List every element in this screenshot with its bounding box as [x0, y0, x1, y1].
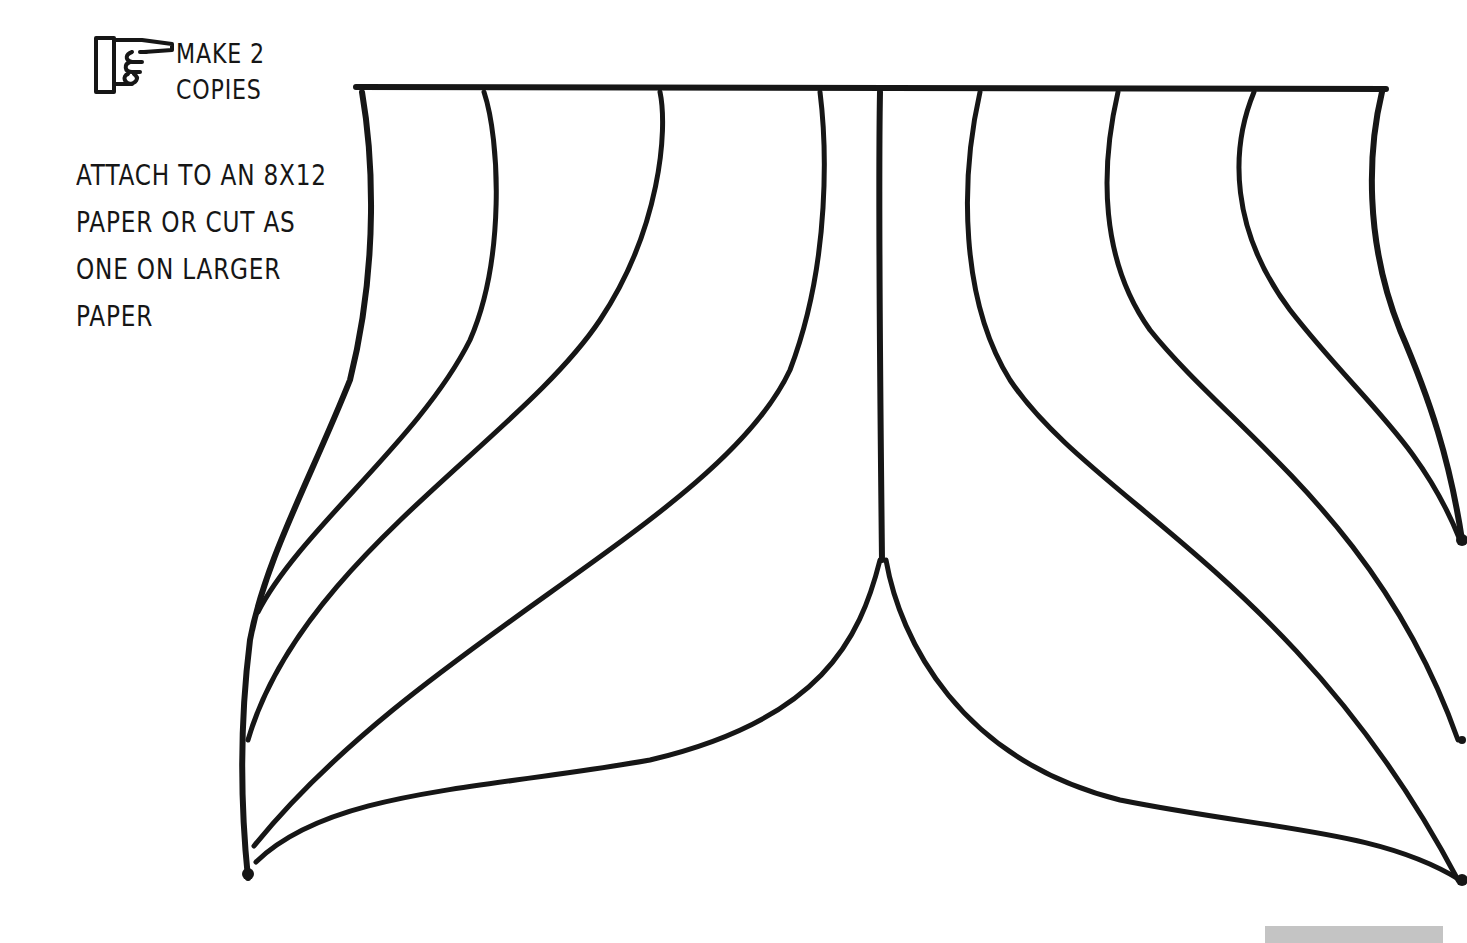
fan-tail-template-drawing — [0, 0, 1467, 943]
right-curve-1 — [886, 560, 1460, 880]
left-outer-edge — [242, 92, 371, 878]
center-stem — [879, 92, 882, 560]
gray-footer-bar — [1265, 926, 1443, 943]
left-curve-1 — [258, 92, 496, 612]
right-tip-2 — [1458, 736, 1466, 744]
right-curve-4 — [1239, 92, 1460, 540]
left-curve-2 — [248, 92, 663, 740]
left-curve-4 — [256, 560, 880, 862]
top-edge-line — [356, 87, 1386, 89]
right-curve-2 — [968, 92, 1458, 880]
left-bottom-tip — [242, 868, 254, 880]
right-curve-3 — [1107, 92, 1458, 740]
right-outer-edge — [1372, 92, 1462, 540]
